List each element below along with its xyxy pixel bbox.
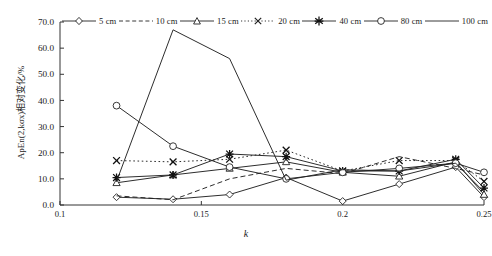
chart-container: 5 cm 10 cm 15 cm — [0, 0, 492, 256]
legend-label-15cm: 15 cm — [217, 16, 239, 26]
y-tick-label: 40.0 — [38, 96, 54, 106]
y-tick-label: 0.0 — [43, 200, 55, 210]
series-40-cm — [113, 150, 488, 192]
data-point-marker — [113, 194, 120, 201]
data-point-marker — [282, 153, 290, 161]
chart-legend: 5 cm 10 cm 15 cm — [62, 13, 488, 29]
y-tick-label: 30.0 — [38, 122, 54, 132]
data-point-marker — [226, 164, 233, 171]
data-point-marker — [480, 184, 488, 192]
legend-symbol-solid-icon — [425, 15, 459, 27]
y-tick-label: 70.0 — [38, 17, 54, 27]
data-point-marker — [113, 157, 120, 164]
y-tick-label: 20.0 — [38, 148, 54, 158]
data-point-marker — [113, 102, 120, 109]
legend-item-20cm[interactable]: 20 cm — [241, 13, 300, 29]
data-point-marker — [226, 191, 233, 198]
data-point-marker — [226, 150, 234, 158]
legend-label-100cm: 100 cm — [462, 16, 488, 26]
series-80-cm — [113, 102, 487, 182]
x-tick-label: 0.15 — [194, 209, 209, 219]
series-100-cm — [117, 30, 484, 192]
legend-item-5cm[interactable]: 5 cm — [62, 13, 116, 29]
legend-symbol-triangle-icon — [180, 15, 214, 27]
series-lines — [113, 30, 488, 205]
legend-label-10cm: 10 cm — [156, 16, 178, 26]
y-tick-label: 10.0 — [38, 174, 54, 184]
legend-symbol-star-icon — [302, 15, 336, 27]
plot-area: 0.010.020.030.040.050.060.070.00.10.150.… — [0, 0, 492, 256]
data-point-marker — [283, 175, 290, 182]
data-point-marker — [339, 198, 346, 205]
x-tick-label: 0.25 — [476, 209, 491, 219]
x-axis-label: k — [0, 228, 492, 239]
data-point-marker — [169, 171, 177, 179]
legend-label-5cm: 5 cm — [99, 16, 116, 26]
data-point-marker — [481, 169, 488, 176]
legend-item-40cm[interactable]: 40 cm — [302, 13, 361, 29]
legend-item-80cm[interactable]: 80 cm — [364, 13, 423, 29]
x-tick-label: 0.1 — [55, 209, 66, 219]
legend-item-15cm[interactable]: 15 cm — [180, 13, 239, 29]
legend-symbol-diamond-icon — [62, 15, 96, 27]
legend-label-20cm: 20 cm — [278, 16, 300, 26]
legend-item-100cm[interactable]: 100 cm — [425, 13, 488, 29]
x-tick-label: 0.2 — [337, 209, 348, 219]
legend-label-40cm: 40 cm — [339, 16, 361, 26]
legend-symbol-dashed-icon — [119, 15, 153, 27]
data-point-marker — [170, 143, 177, 150]
y-tick-label: 60.0 — [38, 43, 54, 53]
legend-symbol-circle-icon — [364, 15, 398, 27]
legend-item-10cm[interactable]: 10 cm — [119, 13, 178, 29]
y-tick-label: 50.0 — [38, 69, 54, 79]
legend-label-80cm: 80 cm — [401, 16, 423, 26]
y-axis-label: ApEn(2,kσx)相对变化/% — [14, 48, 27, 178]
axes: 0.010.020.030.040.050.060.070.00.10.150.… — [38, 17, 492, 219]
data-point-marker — [481, 178, 488, 185]
legend-symbol-cross-icon — [241, 15, 275, 27]
data-point-marker — [396, 181, 403, 188]
